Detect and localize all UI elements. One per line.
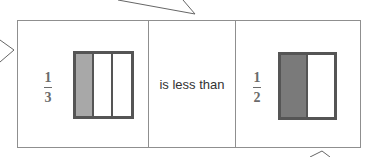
denominator: 2 — [254, 90, 261, 105]
fraction-one-third: 1 3 — [44, 70, 52, 105]
shaded-part — [281, 55, 308, 117]
fraction-bar — [44, 87, 52, 88]
numerator: 1 — [254, 70, 261, 85]
fraction-one-half: 1 2 — [253, 70, 261, 105]
right-fraction-cell: 1 2 — [236, 21, 360, 147]
fraction-bar — [253, 87, 261, 88]
comparison-phrase: is less than — [159, 77, 224, 92]
unshaded-part — [94, 54, 112, 116]
unshaded-part — [308, 55, 335, 117]
left-fraction-cell: 1 3 — [18, 21, 149, 147]
comparison-phrase-cell: is less than — [149, 21, 236, 147]
halves-area-model — [278, 52, 337, 120]
thirds-area-model — [73, 51, 134, 119]
shaded-part — [76, 54, 94, 116]
unshaded-part — [113, 54, 131, 116]
numerator: 1 — [45, 70, 52, 85]
fraction-comparison-table: 1 3 is less than 1 2 — [17, 20, 361, 148]
denominator: 3 — [45, 90, 52, 105]
